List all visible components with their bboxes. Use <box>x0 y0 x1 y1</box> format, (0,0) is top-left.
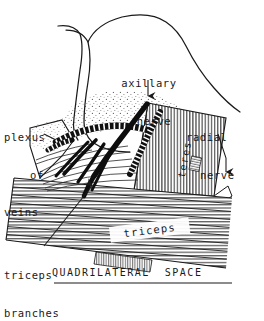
plexus-of-veins-label: plexus of veins <box>4 106 82 231</box>
radial-nerve-label: radial nerve <box>186 106 264 194</box>
triceps-branches-label: triceps branches <box>4 244 100 321</box>
axillary-nerve-label-line1: axillary <box>106 77 192 90</box>
plexus-label-line2: of <box>4 169 82 182</box>
figure-title: QUADRILATERAL SPACE <box>52 267 232 280</box>
triceps-branches-label-line2: branches <box>4 307 100 320</box>
plexus-label-line3: veins <box>4 206 82 219</box>
axillary-nerve-label: axillary nerve <box>106 52 192 140</box>
plexus-label-line1: plexus <box>4 131 82 144</box>
radial-nerve-label-line2: nerve <box>186 169 264 182</box>
radial-nerve-label-line1: radial <box>186 131 264 144</box>
axillary-nerve-label-line2: nerve <box>106 115 192 128</box>
